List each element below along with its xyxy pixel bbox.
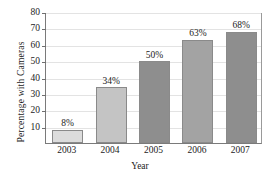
plot-area: 10203040506070808%34%50%63%68% bbox=[45, 13, 262, 144]
bar: 50% bbox=[139, 61, 170, 143]
y-axis-tick-label: 70 bbox=[31, 25, 41, 35]
bar-value-label: 8% bbox=[61, 119, 74, 129]
x-axis-tick-label: 2004 bbox=[101, 146, 120, 156]
y-axis-tick-label: 80 bbox=[31, 8, 41, 18]
x-axis-tick-label: 2006 bbox=[187, 146, 206, 156]
y-axis-tick bbox=[42, 62, 46, 63]
x-axis-title: Year bbox=[0, 162, 280, 172]
y-axis-tick-label: 20 bbox=[31, 107, 41, 117]
y-axis-tick bbox=[42, 111, 46, 112]
bar-value-label: 50% bbox=[146, 51, 163, 61]
gridline bbox=[46, 29, 261, 30]
y-axis-tick bbox=[42, 95, 46, 96]
y-axis-tick-label: 50 bbox=[31, 57, 41, 67]
x-axis-tick-label: 2005 bbox=[144, 146, 163, 156]
y-axis-tick-label: 60 bbox=[31, 41, 41, 51]
bar: 34% bbox=[96, 87, 127, 143]
y-axis-title: Percentage with Cameras bbox=[14, 0, 28, 184]
y-axis-tick bbox=[42, 13, 46, 14]
gridline bbox=[46, 13, 261, 14]
y-axis-tick bbox=[42, 29, 46, 30]
bar: 68% bbox=[226, 32, 257, 143]
y-axis-tick-label: 10 bbox=[31, 123, 41, 133]
y-axis-tick-label: 30 bbox=[31, 90, 41, 100]
x-axis-tick-label: 2007 bbox=[231, 146, 250, 156]
bar-chart-figure: Percentage with Cameras 1020304050607080… bbox=[0, 0, 280, 184]
y-axis-tick-label: 40 bbox=[31, 74, 41, 84]
y-axis-tick bbox=[42, 79, 46, 80]
y-axis-tick bbox=[42, 46, 46, 47]
bar-value-label: 68% bbox=[233, 21, 250, 31]
x-axis-tick-label: 2003 bbox=[57, 146, 76, 156]
y-axis-tick bbox=[42, 128, 46, 129]
bar-value-label: 34% bbox=[102, 77, 119, 87]
bar-value-label: 63% bbox=[189, 29, 206, 39]
bar: 8% bbox=[52, 130, 83, 143]
bar: 63% bbox=[182, 40, 213, 143]
